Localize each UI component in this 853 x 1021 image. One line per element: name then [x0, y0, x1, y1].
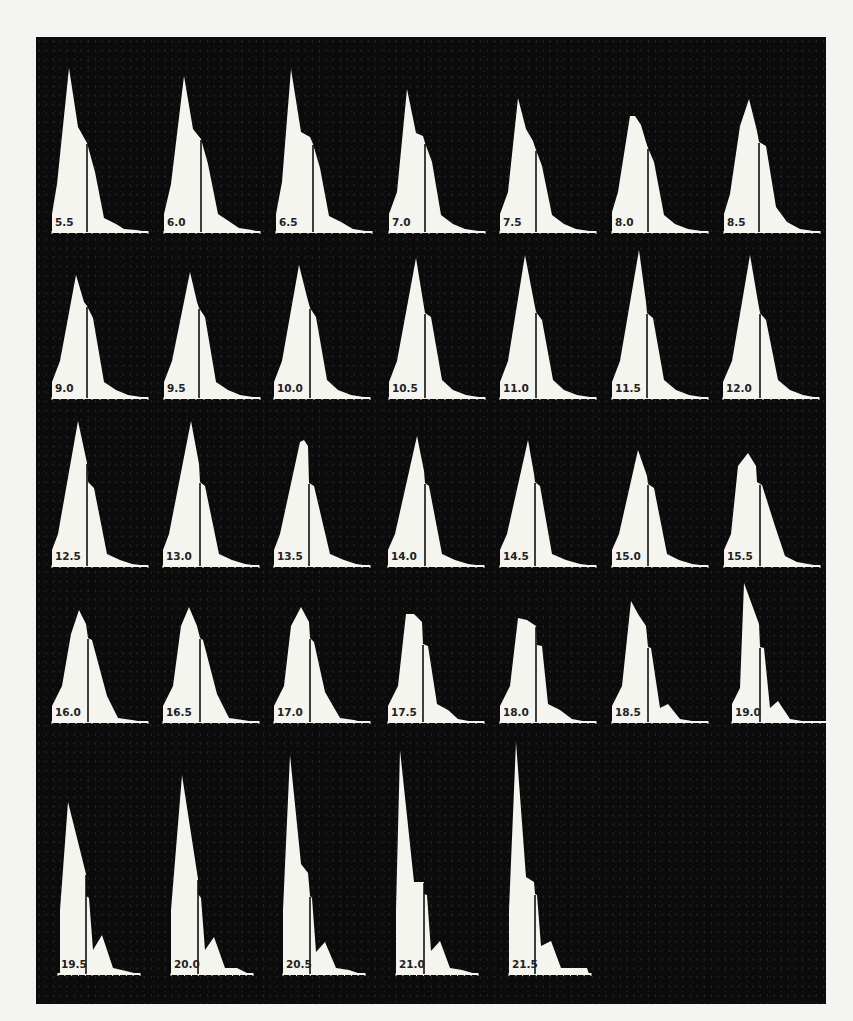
- panel-label: 15.0: [615, 550, 641, 562]
- histogram-panel: 8.5: [724, 99, 820, 234]
- histogram-area: [396, 750, 476, 974]
- histogram-panel: 13.5: [274, 440, 370, 568]
- histogram-panel: 11.5: [612, 250, 708, 400]
- histogram-panel: 16.0: [52, 610, 148, 724]
- histogram-area: [52, 68, 148, 232]
- panel-label: 10.0: [277, 382, 303, 394]
- histogram-area: [283, 755, 361, 974]
- panel-label: 11.0: [503, 382, 529, 394]
- histogram-panel: 13.0: [163, 421, 259, 568]
- histogram-area: [388, 436, 484, 566]
- panel-label: 12.0: [726, 382, 752, 394]
- histogram-panel: 18.5: [612, 601, 708, 724]
- histogram-area: [612, 250, 708, 398]
- panel-label: 13.0: [166, 550, 192, 562]
- histogram-area: [163, 421, 259, 566]
- panel-label: 16.5: [166, 706, 192, 718]
- histogram-area: [276, 69, 372, 232]
- panel-label: 5.5: [55, 216, 74, 228]
- panel-label: 14.5: [503, 550, 529, 562]
- histogram-panel: 9.0: [52, 275, 148, 400]
- panel-label: 6.0: [167, 216, 186, 228]
- histogram-area: [612, 450, 708, 566]
- histogram-panel: 14.5: [500, 440, 596, 568]
- histogram-panel: 21.0: [396, 750, 478, 976]
- panel-label: 7.0: [392, 216, 411, 228]
- panel-label: 18.0: [503, 706, 529, 718]
- histogram-panel: 10.0: [274, 265, 370, 400]
- panel-label: 8.0: [615, 216, 634, 228]
- histogram-grid: 5.56.06.57.07.58.08.59.09.510.010.511.01…: [0, 0, 853, 1021]
- histogram-area: [723, 255, 819, 398]
- panel-label: 14.0: [391, 550, 417, 562]
- histogram-area: [389, 89, 485, 232]
- panel-label: 18.5: [615, 706, 641, 718]
- histogram-panel: 20.5: [283, 755, 365, 976]
- panel-label: 13.5: [277, 550, 303, 562]
- histogram-area: [163, 607, 255, 722]
- histogram-area: [612, 116, 708, 232]
- histogram-panel: 7.0: [389, 89, 485, 234]
- panel-label: 17.0: [277, 706, 303, 718]
- histogram-panel: 11.0: [500, 255, 596, 400]
- histogram-area: [171, 775, 249, 974]
- histogram-area: [52, 421, 148, 566]
- histogram-panel: 19.0: [732, 583, 828, 724]
- histogram-panel: 8.0: [612, 116, 708, 234]
- histogram-panel: 20.0: [171, 775, 253, 976]
- histogram-area: [509, 742, 589, 974]
- histogram-area: [52, 275, 148, 398]
- panel-label: 17.5: [391, 706, 417, 718]
- histogram-panel: 15.5: [724, 453, 820, 568]
- panel-label: 7.5: [503, 216, 522, 228]
- histogram-panel: 16.5: [163, 607, 259, 724]
- histogram-panel: 6.0: [164, 76, 260, 234]
- histogram-panel: 7.5: [500, 98, 596, 234]
- panel-label: 9.5: [167, 382, 186, 394]
- histogram-area: [732, 583, 808, 722]
- histogram-panel: 6.5: [276, 69, 372, 234]
- histogram-panel: 21.5: [509, 742, 591, 976]
- histogram-panel: 15.0: [612, 450, 708, 568]
- panel-label: 20.5: [286, 958, 312, 970]
- panel-label: 15.5: [727, 550, 753, 562]
- histogram-panel: 12.5: [52, 421, 148, 568]
- histogram-panel: 17.5: [388, 614, 484, 724]
- panel-label: 19.0: [735, 706, 761, 718]
- panel-label: 11.5: [615, 382, 641, 394]
- panel-label: 6.5: [279, 216, 298, 228]
- histogram-panel: 17.0: [274, 607, 370, 724]
- histogram-area: [274, 440, 370, 566]
- histogram-panel: 18.0: [500, 618, 596, 724]
- panel-label: 21.5: [512, 958, 538, 970]
- panel-label: 19.5: [61, 958, 87, 970]
- panel-label: 12.5: [55, 550, 81, 562]
- panel-label: 20.0: [174, 958, 200, 970]
- histogram-panel: 12.0: [723, 255, 819, 400]
- panel-label: 9.0: [55, 382, 74, 394]
- histogram-area: [164, 272, 260, 398]
- histogram-area: [724, 99, 820, 232]
- histogram-area: [612, 601, 698, 722]
- histogram-panel: 10.5: [389, 258, 485, 400]
- histogram-panel: 14.0: [388, 436, 484, 568]
- histogram-area: [500, 440, 596, 566]
- panel-label: 10.5: [392, 382, 418, 394]
- histogram-panel: 5.5: [52, 68, 148, 234]
- histogram-area: [274, 265, 370, 398]
- histogram-panel: 19.5: [58, 802, 140, 976]
- panel-label: 16.0: [55, 706, 81, 718]
- histogram-area: [58, 802, 138, 974]
- histogram-area: [164, 76, 260, 232]
- panel-label: 21.0: [399, 958, 425, 970]
- histogram-area: [274, 607, 362, 722]
- histogram-area: [500, 255, 596, 398]
- histogram-area: [389, 258, 485, 398]
- histogram-area: [500, 98, 596, 232]
- histogram-panel: 9.5: [164, 272, 260, 400]
- panel-label: 8.5: [727, 216, 746, 228]
